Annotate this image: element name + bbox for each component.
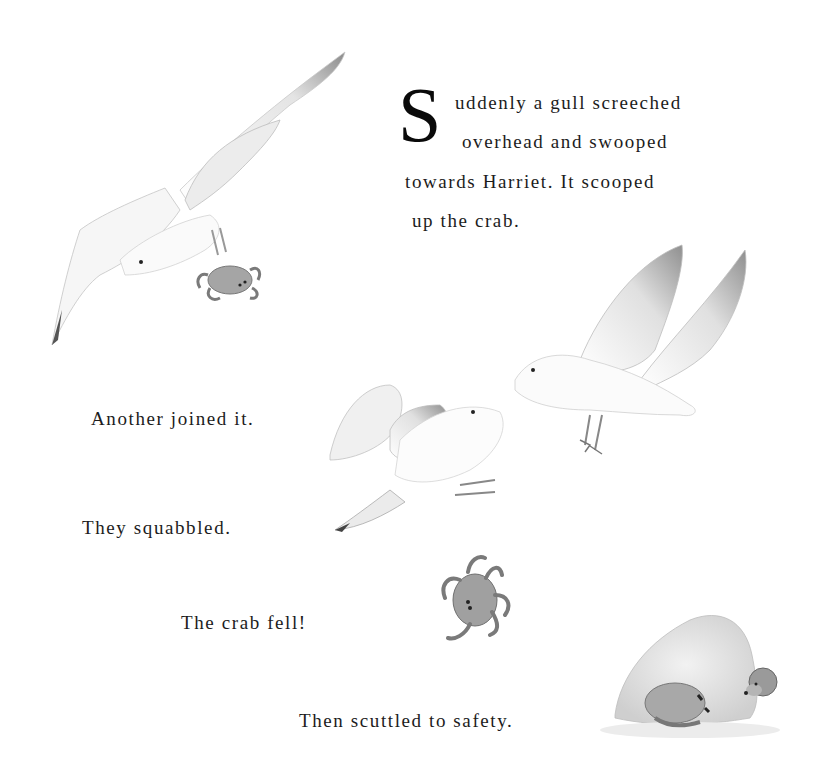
drop-cap: S <box>398 76 441 154</box>
falling-crab-illustration <box>420 540 530 650</box>
caption-another-joined: Another joined it. <box>91 408 254 430</box>
rock-hideout-illustration <box>580 600 800 770</box>
caption-squabbled: They squabbled. <box>82 517 232 539</box>
squabbling-gulls-illustration <box>290 240 760 540</box>
intro-line-2: overhead and swooped <box>462 131 668 153</box>
intro-line-3: towards Harriet. It scooped <box>405 171 655 193</box>
storybook-page: S uddenly a gull screeched overhead and … <box>0 0 822 778</box>
intro-line-4: up the crab. <box>412 210 520 232</box>
caption-crab-fell: The crab fell! <box>181 612 307 634</box>
intro-line-1: uddenly a gull screeched <box>455 92 682 114</box>
caption-scuttled: Then scuttled to safety. <box>299 710 513 732</box>
